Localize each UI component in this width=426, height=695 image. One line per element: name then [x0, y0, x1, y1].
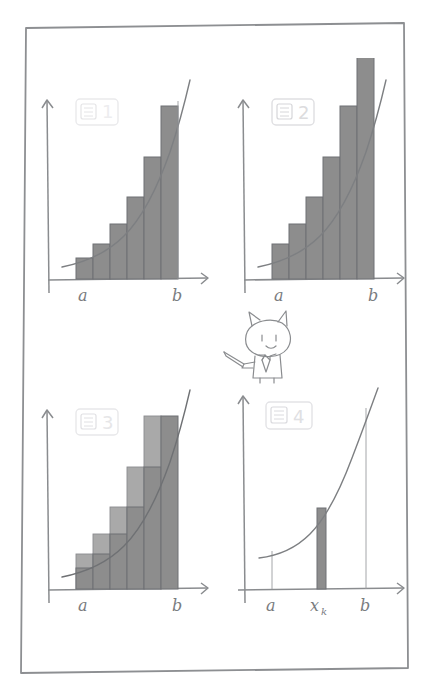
panel-badge: 2 [272, 99, 314, 125]
y-axis [47, 100, 49, 293]
panel-badge: 4 [266, 402, 312, 429]
mascot-arm-left [242, 362, 255, 368]
pointer-stick-icon [224, 352, 244, 364]
bar-rect [110, 224, 127, 279]
bar-rect-lower [144, 467, 161, 589]
bar-rect-lower [161, 416, 178, 589]
mascot-head [246, 320, 291, 356]
panel-3-svg: 3 a b [22, 368, 212, 618]
panel-2-svg: 2 a b [218, 58, 408, 308]
x-tick-label-a: a [78, 596, 88, 615]
x-tick-label-b: b [368, 286, 378, 305]
bar-rect-lower [110, 534, 127, 589]
bar-group-upper [272, 58, 374, 279]
bar-rect [272, 244, 289, 279]
x-tick-label-a: a [266, 596, 276, 615]
badge-number: 4 [293, 406, 304, 427]
bar-rect [289, 224, 306, 279]
panel-badge: 3 [76, 409, 118, 435]
panel-badge: 1 [76, 99, 118, 125]
bar-rect [323, 157, 340, 279]
badge-outline [266, 402, 312, 429]
panel-both-sums: 3 a b [22, 368, 212, 618]
badge-number: 1 [102, 101, 113, 122]
bar-rect [127, 197, 144, 279]
cat-teacher-mascot-svg [222, 308, 306, 384]
x-tick-label-a: a [274, 286, 284, 305]
panel-upper-sum: 2 a b [218, 58, 408, 308]
figure-page: 1 a b [0, 0, 426, 695]
bar-group-lower [76, 106, 178, 279]
y-axis [47, 410, 49, 603]
y-axis [243, 100, 245, 293]
bar-rect [144, 157, 161, 279]
x-tick-label-a: a [78, 286, 88, 305]
panel-single-strip: 4 a x k b [218, 368, 408, 618]
y-axis [243, 396, 245, 603]
x-tick-label-b: b [172, 286, 182, 305]
mascot-muzzle [266, 346, 276, 348]
panel-4-svg: 4 a x k b [218, 368, 408, 618]
x-tick-label-b: b [172, 596, 182, 615]
bar-rect-lower [127, 507, 144, 589]
x-tick-label-b: b [360, 596, 370, 615]
panel-1-svg: 1 a b [22, 58, 212, 308]
badge-number: 3 [102, 412, 113, 433]
panel-lower-sum: 1 a b [22, 58, 212, 308]
bar-rect [161, 106, 178, 279]
cat-teacher-mascot [222, 308, 306, 384]
badge-number: 2 [298, 102, 309, 123]
x-tick-label-xk: x [310, 596, 319, 615]
x-tick-label-xk-subscript: k [321, 606, 327, 617]
bar-rect [306, 197, 323, 279]
